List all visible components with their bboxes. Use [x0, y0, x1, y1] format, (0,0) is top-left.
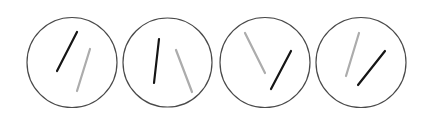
dark-line-segment: [57, 32, 77, 71]
dark-line-segment: [358, 51, 385, 85]
circle-outline: [316, 18, 406, 108]
circle-panel-4: [316, 18, 406, 108]
stimulus-diagram: [0, 0, 429, 116]
light-line-segment: [346, 33, 359, 76]
circle-panel-1: [27, 18, 117, 108]
light-line-segment: [245, 33, 265, 73]
circle-panel-2: [123, 18, 212, 107]
circle-panel-3: [220, 18, 310, 108]
diagram-canvas: [0, 0, 429, 116]
light-line-segment: [176, 50, 192, 92]
circle-outline: [27, 18, 117, 108]
dark-line-segment: [271, 51, 291, 89]
circle-outline: [123, 18, 212, 107]
light-line-segment: [77, 49, 90, 91]
dark-line-segment: [154, 39, 159, 83]
circle-outline: [220, 18, 310, 108]
